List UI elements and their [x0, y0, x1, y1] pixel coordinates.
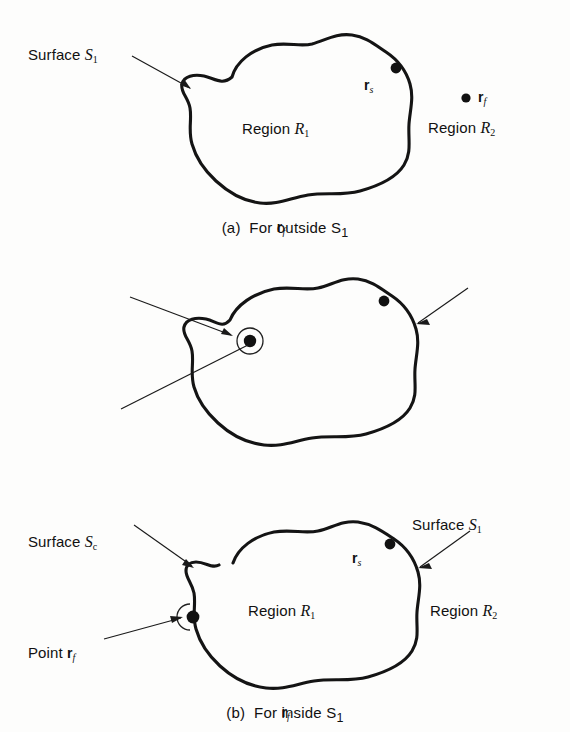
- label-surface-s1-a: Surface S1: [28, 47, 98, 65]
- source-point-rs-marker-b: [379, 296, 390, 307]
- arrowhead-point-rf-c: [170, 616, 183, 623]
- surface-s1-outline-a: [182, 35, 412, 204]
- arrowhead-surface-sc-b: [221, 328, 233, 336]
- figure-page: Surface S1 Region R1 Region R2 rs rf (a)…: [0, 0, 570, 732]
- panel-c: Surface S1 Point rf Surface S1 Region R1…: [0, 487, 570, 732]
- panel-a: Surface S1 Region R1 Region R2 rs rf (a)…: [0, 0, 570, 245]
- label-region-r1-a: Region R1: [242, 121, 309, 139]
- point-rf-marker-b: [244, 335, 256, 347]
- surface-s1-outline-c: [186, 522, 420, 689]
- label-source-point-rs-a: rs: [364, 78, 373, 95]
- label-field-point-rf-a: rf: [478, 90, 486, 107]
- label-region-r2-a: Region R2: [428, 120, 495, 138]
- field-point-rf-marker-a: [461, 93, 470, 102]
- leader-point-rf-c: [104, 618, 181, 639]
- caption-a: (a) For rf outside S1: [0, 219, 570, 240]
- leader-surface-s1-left-c: [134, 525, 192, 566]
- source-point-rs-marker-c: [385, 539, 396, 550]
- leader-surface-s1-b: [418, 288, 468, 323]
- panel-c-graphic: [0, 487, 570, 732]
- leader-point-rf-b: [121, 345, 248, 409]
- panel-b: Surface Sc Point rf Surface S1 Region R1…: [0, 245, 570, 487]
- source-point-rs-marker-a: [391, 63, 402, 74]
- leader-surface-s1-right-c: [420, 531, 470, 567]
- panel-b-graphic: [0, 245, 570, 487]
- point-rf-marker-c: [187, 611, 200, 624]
- leader-surface-sc-b: [130, 297, 231, 335]
